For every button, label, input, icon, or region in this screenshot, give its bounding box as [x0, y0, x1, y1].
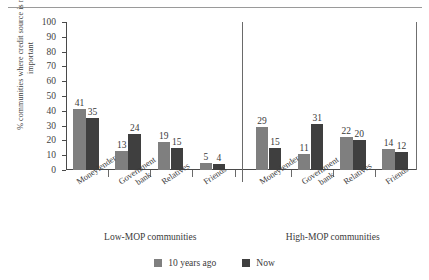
group-title: High-MOP communities	[286, 232, 380, 242]
y-axis-tick: 0	[62, 170, 66, 171]
legend-item: Now	[242, 258, 274, 268]
figure-container: % communities where credit source is mos…	[0, 0, 429, 280]
legend-swatch-icon	[242, 259, 250, 267]
bar-value-label: 31	[312, 113, 322, 123]
plot-right-edge	[416, 22, 417, 170]
y-axis-tick: 30	[62, 126, 66, 127]
x-axis-tick	[192, 170, 193, 177]
y-axis-tick-label: 40	[47, 106, 57, 116]
legend-label: 10 years ago	[168, 258, 216, 268]
group-divider	[242, 22, 243, 182]
bar-value-label: 12	[397, 141, 407, 151]
y-axis-tick-label: 30	[47, 121, 57, 131]
y-axis-tick-label: 20	[47, 135, 57, 145]
x-axis-tick	[375, 170, 376, 177]
x-axis-tick	[235, 170, 236, 177]
y-axis-title: % communities where credit source is mos…	[16, 0, 36, 133]
bar	[382, 149, 395, 170]
y-axis-tick-label: 90	[47, 32, 57, 42]
y-axis-tick: 90	[62, 37, 66, 38]
bar-value-label: 19	[159, 131, 169, 141]
x-axis-tick	[108, 170, 109, 177]
y-axis-tick-label: 10	[47, 150, 57, 160]
bar-value-label: 20	[355, 129, 365, 139]
y-axis-tick-label: 70	[47, 61, 57, 71]
y-axis-tick: 20	[62, 140, 66, 141]
bar-value-label: 41	[75, 98, 85, 108]
y-axis-tick-label: 80	[47, 47, 57, 57]
bar-value-label: 24	[130, 123, 140, 133]
y-axis-tick: 50	[62, 96, 66, 97]
bar-value-label: 14	[384, 138, 394, 148]
y-axis-tick-label: 0	[51, 165, 56, 175]
bar-value-label: 15	[270, 137, 280, 147]
y-axis-tick: 60	[62, 81, 66, 82]
y-axis-tick-label: 60	[47, 76, 57, 86]
bar-value-label: 22	[342, 126, 352, 136]
x-axis-tick	[291, 170, 292, 177]
bar-value-label: 11	[300, 143, 309, 153]
legend-label: Now	[256, 258, 274, 268]
bar-value-label: 29	[257, 116, 267, 126]
bar-value-label: 15	[172, 137, 182, 147]
y-axis-tick: 40	[62, 111, 66, 112]
y-axis-tick: 10	[62, 155, 66, 156]
y-axis-line	[66, 22, 67, 170]
bar-value-label: 4	[217, 153, 222, 163]
bar	[73, 109, 86, 170]
bar-value-label: 35	[88, 107, 98, 117]
bar-value-label: 5	[204, 152, 209, 162]
bar	[200, 163, 213, 170]
cut-off-caption	[22, 0, 422, 5]
plot-area: 1009080706050403020100 41351324191554291…	[66, 22, 417, 170]
y-axis-tick: 80	[62, 52, 66, 53]
bar-value-label: 13	[117, 140, 127, 150]
legend-item: 10 years ago	[154, 258, 216, 268]
y-axis-tick-label: 100	[42, 17, 56, 27]
y-axis-tick: 100	[62, 22, 66, 23]
top-rule-divider	[8, 7, 422, 8]
legend-swatch-icon	[154, 259, 162, 267]
group-title: Low-MOP communities	[104, 232, 196, 242]
y-axis-tick: 70	[62, 66, 66, 67]
chart-legend: 10 years ago Now	[0, 258, 429, 268]
bar	[256, 127, 269, 170]
y-axis-tick-label: 50	[47, 91, 57, 101]
